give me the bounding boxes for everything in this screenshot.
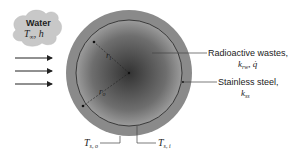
stainless-steel-label: Stainless steel, [218, 77, 279, 87]
water-params: T∞, h [24, 29, 44, 42]
diagram-canvas: Water T∞, h ri ro Radioactive wastes, kr… [0, 0, 299, 150]
radioactive-wastes-props: krw, q̇ [238, 59, 257, 72]
ts-inner-label: Ts, i [158, 138, 171, 150]
radius-inner-label: ri [106, 50, 111, 63]
ts-outer-label: Ts, o [84, 138, 98, 150]
radioactive-wastes-label: Radioactive wastes, [208, 48, 288, 58]
stainless-steel-props: kss [241, 88, 250, 101]
radius-outer-label: ro [99, 86, 106, 99]
water-label: Water [26, 18, 51, 28]
leader-ts-outer [100, 136, 120, 143]
